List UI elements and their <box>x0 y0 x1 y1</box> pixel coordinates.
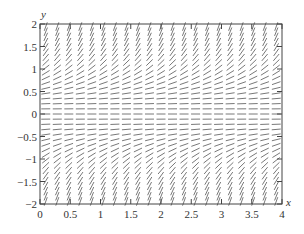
slope-segment <box>191 134 200 135</box>
slope-segment <box>64 87 73 89</box>
slope-segment <box>261 65 268 71</box>
slope-segment <box>214 93 223 94</box>
slope-segment <box>226 82 234 85</box>
slope-segment <box>168 93 177 94</box>
slope-segment <box>214 87 223 89</box>
slope-segment <box>145 134 154 135</box>
slope-segment <box>53 153 61 158</box>
slope-segment <box>272 139 281 141</box>
slope-segment <box>260 93 269 94</box>
slope-segment <box>54 158 61 164</box>
slope-segment <box>134 143 143 146</box>
slope-segment <box>273 65 280 71</box>
slope-segment <box>204 158 211 164</box>
slope-segment <box>42 76 50 80</box>
slope-segment <box>192 70 200 75</box>
slope-segment <box>111 139 120 141</box>
slope-segment <box>122 129 131 130</box>
slope-segment <box>249 93 258 94</box>
slope-segment <box>65 148 73 152</box>
slope-segment <box>42 143 51 146</box>
slope-segment <box>53 87 62 89</box>
slope-segment <box>134 158 141 164</box>
slope-segment <box>203 129 212 130</box>
slope-segment <box>215 70 223 75</box>
slope-segment <box>203 70 211 75</box>
slope-segment <box>65 153 73 158</box>
slope-segment <box>53 82 61 85</box>
slope-segment <box>169 153 177 158</box>
slope-segment <box>191 129 200 130</box>
slope-segment <box>87 139 96 141</box>
slope-segment <box>88 158 95 164</box>
y-tick-label: −1.5 <box>17 176 37 188</box>
slope-segment <box>168 143 176 146</box>
slope-segment <box>99 82 108 85</box>
slope-segment <box>157 82 166 85</box>
slope-segment <box>100 153 108 158</box>
slope-segment <box>249 139 258 141</box>
slope-segment <box>122 82 130 85</box>
slope-segment <box>134 76 142 80</box>
slope-segment <box>168 134 177 135</box>
slope-segment <box>41 93 50 94</box>
slope-segment <box>111 148 119 152</box>
slope-segment <box>272 87 281 89</box>
slope-segment <box>157 139 166 141</box>
slope-field-chart: 00.511.522.533.54 −2−1.5−1−0.500.511.52 … <box>0 0 304 234</box>
slope-segment <box>237 139 246 141</box>
slope-segment <box>249 98 258 99</box>
slope-segment <box>168 129 177 130</box>
slope-segment <box>157 129 166 130</box>
slope-segment <box>146 65 153 71</box>
slope-segment <box>261 158 268 164</box>
y-tick-label: 0.5 <box>23 86 37 98</box>
slope-segment <box>53 70 61 75</box>
slope-segment <box>214 139 223 141</box>
slope-segment <box>99 98 108 99</box>
y-tick-labels: −2−1.5−1−0.500.511.52 <box>17 18 37 210</box>
slope-segment <box>272 70 280 75</box>
slope-segment <box>99 139 108 141</box>
slope-segment <box>180 134 189 135</box>
slope-segment <box>76 98 85 99</box>
slope-segment <box>64 139 73 141</box>
x-tick-label: 3.5 <box>245 208 259 220</box>
slope-segment <box>226 134 235 135</box>
slope-segment <box>42 65 49 71</box>
slope-segment <box>168 87 177 89</box>
slope-segment <box>226 87 235 89</box>
y-tick-label: 0 <box>32 108 38 120</box>
slope-segment <box>41 139 50 141</box>
slope-segment <box>145 148 153 152</box>
slope-segment <box>64 129 73 130</box>
slope-segment <box>87 98 96 99</box>
slope-segment <box>134 82 143 85</box>
slope-segment <box>249 129 258 130</box>
slope-segment <box>41 134 50 135</box>
slope-segment <box>272 143 281 146</box>
slope-segment <box>157 87 166 89</box>
slope-segment <box>237 98 246 99</box>
slope-segment <box>42 148 50 152</box>
slope-segment <box>180 129 189 130</box>
slope-segment <box>133 98 142 99</box>
slope-segment <box>192 153 200 158</box>
slope-segment <box>41 98 50 99</box>
slope-segment <box>180 87 189 89</box>
slope-segment <box>249 153 257 158</box>
slope-segment <box>110 129 119 130</box>
slope-segment <box>145 129 154 130</box>
slope-segment <box>226 76 234 80</box>
slope-segment <box>53 134 62 135</box>
slope-segment <box>76 87 85 89</box>
slope-segment <box>273 158 280 164</box>
slope-segment <box>87 93 96 94</box>
slope-segment <box>192 76 200 80</box>
slope-segment <box>122 98 131 99</box>
slope-segment <box>203 143 211 146</box>
slope-segment <box>168 148 176 152</box>
slope-segment <box>191 93 200 94</box>
slope-segment <box>191 82 200 85</box>
slope-segment <box>42 153 50 158</box>
